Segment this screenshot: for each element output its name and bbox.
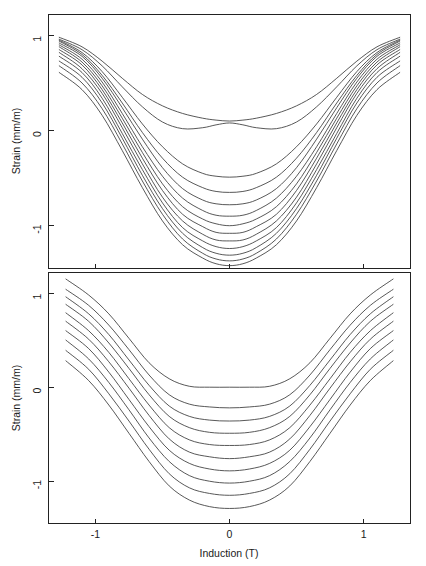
data-curve [66, 361, 393, 509]
data-curve [66, 340, 393, 483]
top-panel-tick-labels: -101 [32, 36, 44, 234]
bottom-y-axis-title: Strain (mm/m) [10, 365, 22, 432]
data-curve [66, 331, 393, 471]
data-curve [66, 279, 393, 387]
data-curve [59, 43, 400, 205]
x-tick-label: 0 [227, 528, 233, 540]
top-panel-frame [49, 15, 411, 269]
y-tick-label: 1 [32, 36, 44, 42]
magnetostriction-figure: -101 -101-101 Strain (mm/m) Strain (mm/m… [0, 0, 426, 566]
bottom-panel-curves [66, 279, 393, 508]
x-axis-title: Induction (T) [200, 547, 259, 559]
top-y-axis-title: Strain (mm/m) [10, 108, 22, 175]
y-tick-label: 0 [32, 131, 44, 137]
y-tick-label: -1 [32, 480, 44, 489]
data-curve [59, 73, 400, 266]
data-curve [59, 66, 400, 261]
top-panel-curves [59, 37, 400, 265]
x-tick-label: 1 [361, 528, 367, 540]
bottom-panel-tick-labels: -101-101 [32, 294, 367, 540]
data-curve [66, 351, 393, 496]
top-panel: -101 [32, 15, 411, 269]
data-curve [59, 45, 400, 216]
y-tick-label: -1 [32, 224, 44, 233]
data-curve [59, 40, 400, 177]
data-curve [59, 39, 400, 129]
data-curve [59, 56, 400, 248]
bottom-panel-frame [49, 273, 411, 524]
data-curve [59, 50, 400, 234]
x-tick-label: -1 [91, 528, 100, 540]
y-tick-label: 0 [32, 388, 44, 394]
data-curve [59, 53, 400, 241]
y-tick-label: 1 [32, 294, 44, 300]
data-curve [59, 37, 400, 121]
bottom-panel: -101-101 [32, 273, 411, 540]
chart-canvas: -101 -101-101 Strain (mm/m) Strain (mm/m… [0, 0, 426, 566]
